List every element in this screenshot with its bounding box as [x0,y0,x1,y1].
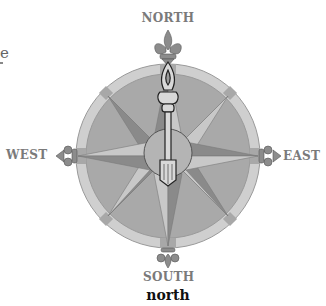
fleur-de-lis-south-icon [157,248,179,268]
direction-label-west: WEST [6,148,47,162]
fleur-de-lis-east-icon [259,146,281,166]
direction-label-east: EAST [283,149,320,163]
compass-rose [0,0,326,306]
fleur-de-lis-west-icon [56,146,77,166]
direction-label-north: NORTH [140,11,196,25]
answer-caption: north [118,287,218,303]
fleur-de-lis-north-icon [155,30,182,66]
direction-label-south: SOUTH [143,270,193,284]
